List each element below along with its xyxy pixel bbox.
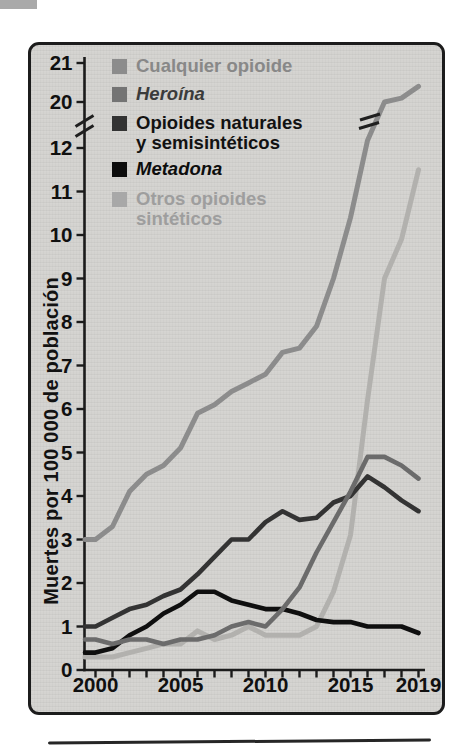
y-tick-label: 8 xyxy=(61,310,72,333)
y-tick-label: 2 xyxy=(61,571,72,594)
x-tick-label: 2000 xyxy=(73,673,119,696)
y-tick-label: 20 xyxy=(50,90,73,113)
y-tick-label: 7 xyxy=(61,354,72,377)
y-tick-label: 0 xyxy=(61,658,72,681)
x-tick-label: 2019 xyxy=(396,673,442,696)
line-chart: 2120121110987654321020002005201020152019 xyxy=(0,0,471,752)
y-tick-label: 12 xyxy=(50,136,73,159)
y-tick-label: 10 xyxy=(50,223,73,246)
x-tick-label: 2010 xyxy=(243,673,289,696)
x-tick-label: 2005 xyxy=(158,673,204,696)
y-tick-label: 4 xyxy=(61,484,73,507)
y-tick-label: 11 xyxy=(51,180,73,203)
y-tick-label: 6 xyxy=(61,397,72,420)
y-axis-title: Muertes por 100 000 de población xyxy=(40,277,63,605)
series-line-0 xyxy=(85,86,419,539)
y-tick-label: 21 xyxy=(50,51,73,74)
scanned-figure-page: 2120121110987654321020002005201020152019… xyxy=(0,0,471,752)
y-tick-label: 5 xyxy=(61,441,72,464)
y-tick-label: 9 xyxy=(61,267,72,290)
series-line-4 xyxy=(85,170,419,657)
x-tick-label: 2015 xyxy=(328,673,374,696)
y-tick-label: 1 xyxy=(61,615,72,638)
y-tick-label: 3 xyxy=(61,528,72,551)
